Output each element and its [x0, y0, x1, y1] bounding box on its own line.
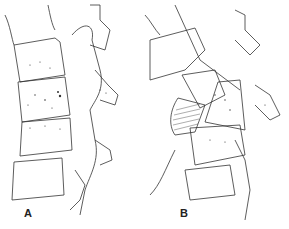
panel-a-drawing: [5, 5, 118, 215]
panel-label-b: B: [180, 207, 188, 219]
panel-b-drawing: [145, 5, 280, 220]
spine-illustration: [0, 0, 289, 229]
panel-label-a: A: [24, 207, 32, 219]
